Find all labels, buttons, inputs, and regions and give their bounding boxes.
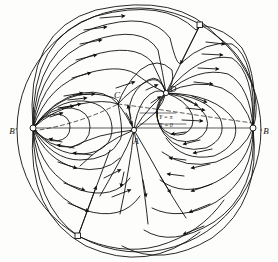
annotation-line-1: Y = π <box>159 114 173 120</box>
label-a: A <box>132 136 139 146</box>
separatrix-segments <box>78 25 200 236</box>
upper-right-fan-streamlines <box>166 25 256 128</box>
lower-right-fan-streamlines <box>122 128 254 255</box>
a-node[interactable] <box>131 127 136 132</box>
label-b: B <box>263 126 269 136</box>
boundary-node-bottom-left[interactable] <box>75 233 81 239</box>
annotation-line-2: X = 0 <box>158 122 173 128</box>
boundary-node-top-right[interactable] <box>197 22 203 28</box>
streamline-diagram: B' B C A D Y = π X = 0 <box>0 0 278 262</box>
label-d: D <box>169 84 177 94</box>
b-prime-node[interactable] <box>30 125 36 131</box>
label-c: C <box>114 90 121 100</box>
figure-canvas: B' B C A D Y = π X = 0 <box>0 0 278 262</box>
b-node[interactable] <box>250 125 256 131</box>
d-node[interactable] <box>163 90 168 95</box>
label-b-prime: B' <box>9 126 17 136</box>
